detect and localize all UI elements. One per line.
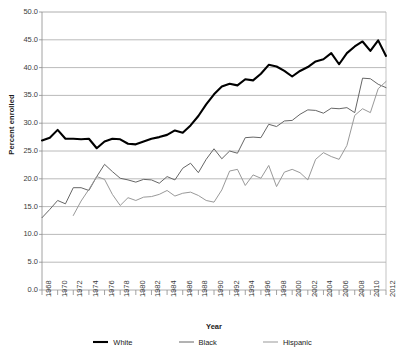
y-tick-label: 0.0 bbox=[4, 286, 38, 294]
x-tick-label: 2010 bbox=[373, 280, 381, 297]
x-tick-label: 1990 bbox=[217, 280, 225, 297]
y-tick-label: 30.0 bbox=[4, 119, 38, 127]
x-tick-label: 1982 bbox=[154, 280, 162, 297]
series-line-white bbox=[42, 40, 386, 148]
x-tick-label: 1972 bbox=[76, 280, 84, 297]
legend-swatch-black-icon bbox=[179, 338, 194, 346]
x-tick-label: 1968 bbox=[45, 280, 53, 297]
legend-label: Hispanic bbox=[283, 338, 312, 347]
x-tick-label: 1988 bbox=[201, 280, 209, 297]
x-tick-label: 2012 bbox=[389, 280, 397, 297]
x-tick-label: 2004 bbox=[326, 280, 334, 297]
y-tick-label: 40.0 bbox=[4, 64, 38, 72]
legend-swatch-white-icon bbox=[93, 338, 108, 346]
legend-label: White bbox=[113, 338, 132, 347]
x-tick-label: 1984 bbox=[170, 280, 178, 297]
x-tick-label: 1978 bbox=[123, 280, 131, 297]
x-tick-label: 1986 bbox=[186, 280, 194, 297]
y-axis-tick-labels: 50.045.040.035.030.025.020.015.010.05.00… bbox=[0, 0, 38, 290]
legend-item-white[interactable]: White bbox=[93, 338, 132, 347]
legend-swatch-hispanic-icon bbox=[263, 338, 278, 346]
series-line-black bbox=[42, 78, 386, 218]
enrollment-line-chart: Percent enrolled 50.045.040.035.030.025.… bbox=[0, 0, 405, 351]
x-tick-label: 1998 bbox=[280, 280, 288, 297]
x-tick-label: 1992 bbox=[233, 280, 241, 297]
x-tick-label: 1976 bbox=[108, 280, 116, 297]
y-tick-label: 45.0 bbox=[4, 36, 38, 44]
y-tick-label: 10.0 bbox=[4, 230, 38, 238]
x-tick-label: 2002 bbox=[311, 280, 319, 297]
x-tick-label: 1970 bbox=[61, 280, 69, 297]
x-axis-title: Year bbox=[42, 322, 386, 331]
y-tick-label: 50.0 bbox=[4, 8, 38, 16]
x-tick-label: 1980 bbox=[139, 280, 147, 297]
y-tick-label: 35.0 bbox=[4, 91, 38, 99]
y-tick-label: 20.0 bbox=[4, 175, 38, 183]
y-tick-label: 5.0 bbox=[4, 258, 38, 266]
legend-item-hispanic[interactable]: Hispanic bbox=[263, 338, 312, 347]
x-tick-label: 1996 bbox=[264, 280, 272, 297]
x-tick-label: 2006 bbox=[342, 280, 350, 297]
chart-legend: WhiteBlackHispanic bbox=[0, 333, 405, 351]
y-tick-label: 25.0 bbox=[4, 147, 38, 155]
legend-label: Black bbox=[199, 338, 217, 347]
x-tick-label: 1974 bbox=[92, 280, 100, 297]
chart-title bbox=[40, 0, 380, 5]
x-tick-label: 2000 bbox=[295, 280, 303, 297]
y-tick-label: 15.0 bbox=[4, 203, 38, 211]
x-tick-label: 1994 bbox=[248, 280, 256, 297]
plot-area bbox=[0, 0, 405, 351]
x-tick-label: 2008 bbox=[358, 280, 366, 297]
series-line-hispanic bbox=[73, 82, 386, 216]
legend-item-black[interactable]: Black bbox=[179, 338, 217, 347]
